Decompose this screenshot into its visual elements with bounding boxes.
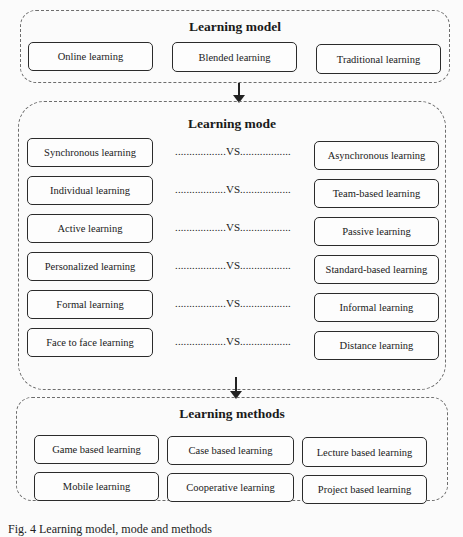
model-box-blended: Blended learning — [172, 42, 297, 72]
method-box-game: Game based learning — [34, 435, 159, 464]
dotted-line: .................. — [240, 222, 291, 233]
vs-label: VS — [226, 335, 240, 347]
vs-separator: ..................VS.................. — [158, 297, 308, 309]
figure-caption: Fig. 4 Learning model, mode and methods — [8, 522, 212, 537]
arrow-down-icon — [233, 83, 245, 103]
mode-box-right: Passive learning — [314, 217, 439, 246]
mode-box-right: Distance learning — [314, 331, 439, 360]
learning-model-title: Learning model — [21, 19, 449, 35]
dotted-line: .................. — [240, 336, 291, 347]
mode-box-left: Active learning — [27, 214, 153, 243]
vs-label: VS — [226, 183, 240, 195]
model-box-traditional: Traditional learning — [316, 44, 441, 74]
dotted-line: .................. — [175, 298, 226, 309]
vs-separator: ..................VS.................. — [158, 259, 308, 271]
mode-box-left: Face to face learning — [27, 328, 153, 357]
vs-label: VS — [226, 145, 240, 157]
mode-box-right: Standard-based learning — [314, 255, 439, 284]
mode-box-right: Asynchronous learning — [314, 141, 439, 170]
dotted-line: .................. — [175, 146, 226, 157]
learning-methods-title: Learning methods — [17, 406, 447, 422]
dotted-line: .................. — [240, 146, 291, 157]
model-box-online: Online learning — [28, 42, 153, 71]
dotted-line: .................. — [240, 260, 291, 271]
dotted-line: .................. — [175, 222, 226, 233]
dotted-line: .................. — [175, 184, 226, 195]
dotted-line: .................. — [175, 260, 226, 271]
vs-separator: ..................VS.................. — [158, 221, 308, 233]
method-box-project: Project based learning — [302, 475, 427, 504]
method-box-cooperative: Cooperative learning — [167, 473, 294, 502]
mode-box-left: Personalized learning — [27, 252, 153, 281]
mode-box-right: Team-based learning — [314, 179, 439, 208]
mode-box-left: Synchronous learning — [27, 138, 153, 167]
dotted-line: .................. — [240, 184, 291, 195]
arrow-down-icon — [230, 377, 242, 399]
method-box-mobile: Mobile learning — [34, 472, 159, 501]
vs-separator: ..................VS.................. — [158, 335, 308, 347]
vs-separator: ..................VS.................. — [158, 145, 308, 157]
method-box-lecture: Lecture based learning — [302, 437, 427, 467]
dotted-line: .................. — [240, 298, 291, 309]
vs-label: VS — [226, 259, 240, 271]
mode-box-right: Informal learning — [314, 293, 439, 322]
vs-label: VS — [226, 221, 240, 233]
vs-separator: ..................VS.................. — [158, 183, 308, 195]
mode-box-left: Formal learning — [27, 290, 153, 319]
method-box-case: Case based learning — [167, 436, 294, 465]
vs-label: VS — [226, 297, 240, 309]
mode-box-left: Individual learning — [27, 176, 153, 205]
learning-mode-title: Learning mode — [19, 116, 445, 132]
dotted-line: .................. — [175, 336, 226, 347]
